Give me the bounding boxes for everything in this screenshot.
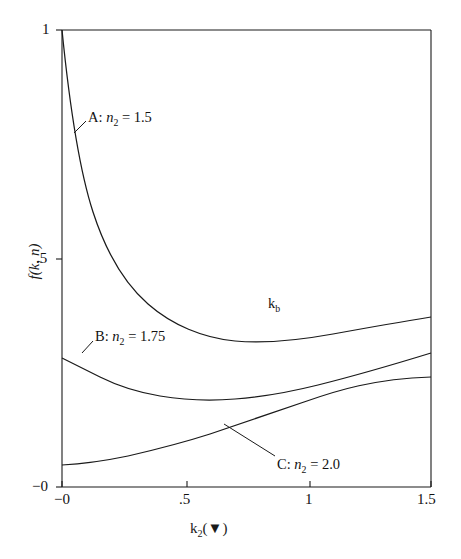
curve-c-value: = 2.0 bbox=[307, 456, 341, 472]
annotation-leader-lines bbox=[74, 121, 275, 456]
nabla-icon: ▼ bbox=[208, 520, 223, 536]
plot-canvas bbox=[0, 0, 461, 559]
curve-c bbox=[62, 377, 431, 465]
curve-a-prefix: A: bbox=[88, 109, 106, 125]
kb-annotation: kb bbox=[268, 296, 280, 314]
y-tick-label-0: −0 bbox=[32, 479, 48, 494]
leader-line-b bbox=[82, 341, 93, 353]
x-tick-label-0.5: .5 bbox=[179, 492, 190, 507]
x-tick-label-1: 1 bbox=[305, 492, 313, 507]
y-tick-marks bbox=[56, 30, 62, 487]
x-tick-marks bbox=[62, 481, 431, 487]
x-tick-label-0: −0 bbox=[54, 492, 70, 507]
curve-a bbox=[62, 30, 431, 342]
x-axis-label-base: k bbox=[190, 520, 198, 536]
curve-b-prefix: B: bbox=[95, 328, 112, 344]
curve-b-variable: n bbox=[112, 328, 119, 344]
kb-subscript: b bbox=[275, 303, 280, 314]
curve-b-value: = 1.75 bbox=[125, 328, 166, 344]
figure-container: f(k, n) 1 .5 −0 −0 .5 1 1.5 k2(▼) A: n2 … bbox=[0, 0, 461, 559]
curve-a-annotation: A: n2 = 1.5 bbox=[88, 110, 152, 128]
curve-b bbox=[62, 353, 431, 400]
y-tick-label-1: 1 bbox=[42, 22, 50, 37]
curve-c-prefix: C: bbox=[277, 456, 294, 472]
axis-frame bbox=[62, 30, 431, 487]
curve-b-annotation: B: n2 = 1.75 bbox=[95, 329, 165, 347]
x-axis-label: k2(▼) bbox=[190, 521, 227, 539]
y-tick-label-0.5: .5 bbox=[36, 251, 47, 266]
leader-line-c bbox=[224, 424, 275, 456]
curve-a-value: = 1.5 bbox=[118, 109, 152, 125]
leader-line-a bbox=[74, 121, 86, 133]
curve-c-variable: n bbox=[294, 456, 301, 472]
x-axis-label-paren-close: ) bbox=[222, 520, 227, 536]
x-tick-label-1.5: 1.5 bbox=[417, 492, 436, 507]
curve-c-annotation: C: n2 = 2.0 bbox=[277, 457, 340, 475]
